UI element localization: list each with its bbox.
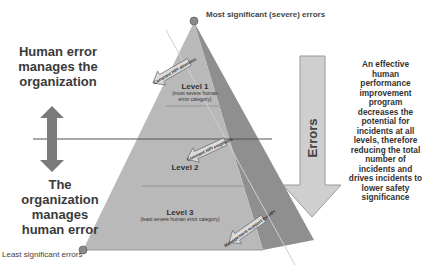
org-manages-human-error-label: The organization manages human error xyxy=(10,178,110,238)
most-significant-errors-label: Most significant (severe) errors xyxy=(206,10,326,19)
level-3-subtitle: (least severe human error category) xyxy=(140,217,220,223)
level-1: Level 1 (most severe human error categor… xyxy=(170,82,220,103)
apex-circle-icon xyxy=(190,17,198,25)
human-error-manages-org-label: Human error manages the organization xyxy=(8,45,108,90)
level-2: Level 2 xyxy=(155,163,215,172)
errors-arrow-label: Errors xyxy=(305,118,320,157)
level-3: Level 3 (least severe human error catego… xyxy=(140,208,220,223)
description-paragraph: An effective human performance improveme… xyxy=(348,60,423,203)
level-2-title: Level 2 xyxy=(155,163,215,172)
least-significant-errors-label: Least significant errors xyxy=(2,250,92,259)
level-1-subtitle: (most severe human error category) xyxy=(170,91,220,103)
